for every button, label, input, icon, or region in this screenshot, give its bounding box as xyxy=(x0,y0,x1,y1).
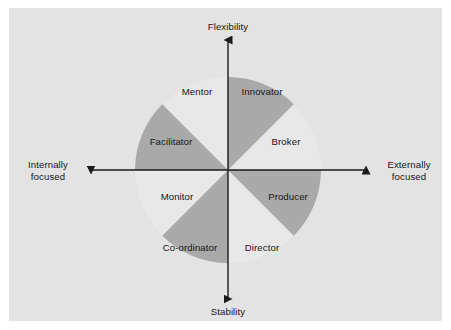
segment-label-monitor: Monitor xyxy=(161,191,194,203)
axis-label-externally-line1: Externally xyxy=(387,159,430,170)
axis-label-externally-focused: Externally focused xyxy=(376,159,442,182)
segment-label-coordinator: Co-ordinator xyxy=(163,242,218,254)
segment-label-director: Director xyxy=(245,242,279,254)
axis-label-externally-line2: focused xyxy=(392,170,426,181)
segment-label-facilitator: Facilitator xyxy=(150,136,193,148)
axis-label-stability: Stability xyxy=(211,306,246,318)
segment-label-broker: Broker xyxy=(272,136,301,148)
segment-label-innovator: Innovator xyxy=(242,86,283,98)
segment-label-producer: Producer xyxy=(268,191,308,203)
competing-values-figure: Mentor Innovator Facilitator Broker Moni… xyxy=(0,0,451,330)
axis-label-internally-line1: Internally xyxy=(28,159,68,170)
axis-label-internally-line2: focused xyxy=(31,170,65,181)
axis-label-flexibility: Flexibility xyxy=(208,21,249,33)
segment-label-mentor: Mentor xyxy=(182,86,212,98)
axis-label-internally-focused: Internally focused xyxy=(15,159,81,182)
